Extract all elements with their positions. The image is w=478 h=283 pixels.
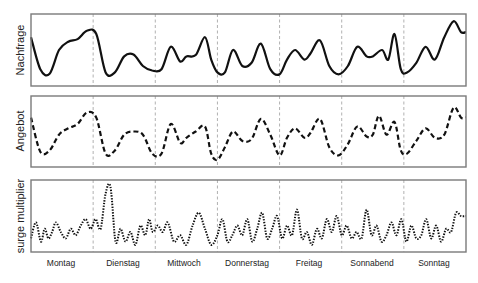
xtick-donnerstag: Donnerstag bbox=[225, 258, 269, 268]
x-axis-labels: Montag Dienstag Mittwoch Donnerstag Frei… bbox=[47, 258, 450, 268]
panel-frame bbox=[31, 14, 466, 86]
line-angebot bbox=[31, 107, 466, 160]
chart-canvas: Nachfrage Angebot surge multiplier Monta… bbox=[0, 0, 478, 283]
xtick-mittwoch: Mittwoch bbox=[167, 258, 201, 268]
day-dividers bbox=[93, 14, 404, 86]
line-nachfrage bbox=[31, 21, 466, 76]
ylabel-angebot: Angebot bbox=[14, 111, 26, 152]
panel-frame bbox=[31, 180, 466, 252]
xtick-montag: Montag bbox=[47, 258, 76, 268]
xtick-dienstag: Dienstag bbox=[106, 258, 140, 268]
weekly-demand-supply-surge-chart: Nachfrage Angebot surge multiplier Monta… bbox=[0, 0, 478, 283]
ylabel-surge-multiplier: surge multiplier bbox=[14, 178, 26, 253]
xtick-sonntag: Sonntag bbox=[418, 258, 450, 268]
xtick-freitag: Freitag bbox=[296, 258, 323, 268]
xtick-sonnabend: Sonnabend bbox=[350, 258, 394, 268]
panel-frame bbox=[31, 96, 466, 167]
panel-surge-multiplier: surge multiplier bbox=[14, 178, 466, 253]
day-dividers bbox=[93, 96, 404, 167]
line-surge-multiplier bbox=[31, 184, 466, 245]
panel-nachfrage: Nachfrage bbox=[14, 14, 466, 86]
day-dividers bbox=[93, 180, 404, 252]
panel-angebot: Angebot bbox=[14, 96, 466, 167]
ylabel-nachfrage: Nachfrage bbox=[14, 25, 26, 76]
